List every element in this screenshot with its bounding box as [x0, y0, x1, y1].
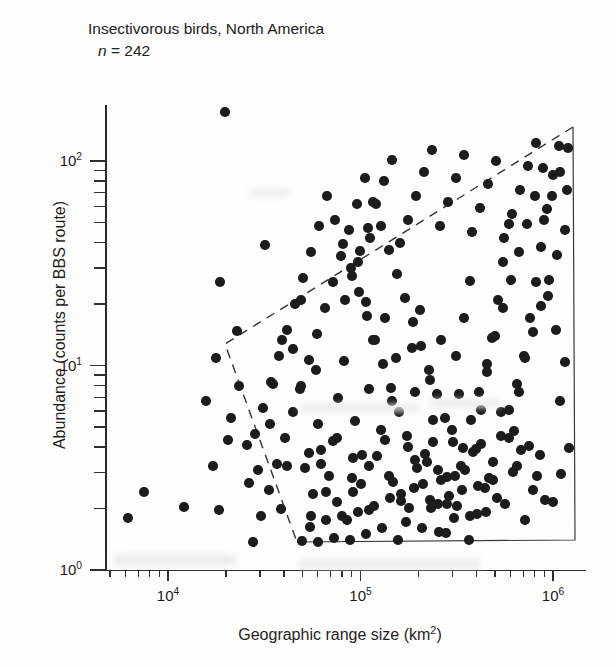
- scatter-point: [387, 396, 397, 406]
- scatter-point: [328, 277, 338, 287]
- scatter-point: [560, 357, 570, 367]
- scatter-point: [377, 523, 387, 533]
- scatter-point: [320, 303, 330, 313]
- scatter-point: [304, 355, 314, 365]
- scatter-point: [353, 507, 363, 517]
- scatter-point: [507, 209, 517, 219]
- scatter-point: [542, 204, 552, 214]
- dashed-constraint-polygon: [0, 0, 615, 668]
- scatter-point: [488, 457, 498, 467]
- scatter-point: [392, 269, 402, 279]
- scatter-point: [296, 381, 306, 391]
- scatter-point: [316, 445, 326, 455]
- scatter-point: [258, 403, 268, 413]
- scatter-point: [333, 393, 343, 403]
- scatter-point: [226, 413, 236, 423]
- scatter-point: [451, 351, 461, 361]
- scatter-point: [256, 511, 266, 521]
- scatter-point: [539, 215, 549, 225]
- scatter-point: [250, 429, 260, 439]
- scatter-point: [460, 465, 470, 475]
- scatter-point: [476, 439, 486, 449]
- scatter-point: [424, 365, 434, 375]
- scatter-point: [356, 479, 366, 489]
- scatter-point: [410, 455, 420, 465]
- scatter-point: [508, 467, 518, 477]
- scatter-point: [563, 143, 573, 153]
- scatter-point: [329, 533, 339, 543]
- scatter-point: [364, 384, 374, 394]
- scatter-point: [484, 473, 494, 483]
- scatter-point: [525, 313, 535, 323]
- scatter-point: [536, 301, 546, 311]
- scatter-point: [498, 257, 508, 267]
- scatter-point: [499, 233, 509, 243]
- scatter-point: [376, 425, 386, 435]
- scatter-point: [260, 240, 270, 250]
- scatter-point: [357, 450, 367, 460]
- scatter-point: [340, 295, 350, 305]
- scatter-point: [435, 221, 445, 231]
- scatter-point: [556, 469, 566, 479]
- scatter-point: [282, 461, 292, 471]
- scatter-point: [452, 501, 462, 511]
- scatter-point: [530, 191, 540, 201]
- scatter-point: [419, 167, 429, 177]
- scatter-point: [355, 246, 365, 256]
- scatter-point: [400, 293, 410, 303]
- scatter-point: [313, 419, 323, 429]
- scatter-point: [274, 351, 284, 361]
- scatter-point: [179, 502, 189, 512]
- scatter-point: [425, 375, 435, 385]
- scatter-point: [220, 107, 230, 117]
- scatter-point: [538, 163, 548, 173]
- scatter-point: [361, 297, 371, 307]
- scatter-point: [403, 215, 413, 225]
- scatter-point: [551, 325, 561, 335]
- scatter-point: [515, 185, 525, 195]
- scatter-point: [459, 313, 469, 323]
- scatter-point: [433, 465, 443, 475]
- scatter-point: [305, 522, 315, 532]
- scatter-point: [474, 387, 484, 397]
- scatter-point: [476, 405, 486, 415]
- scatter-point: [393, 535, 403, 545]
- scatter-point: [427, 145, 437, 155]
- scatter-point: [426, 503, 436, 513]
- scatter-point: [432, 389, 442, 399]
- scatter-point: [368, 197, 378, 207]
- scatter-point: [300, 463, 310, 473]
- scatter-point: [449, 513, 459, 523]
- scatter-point: [264, 485, 274, 495]
- scatter-point: [459, 150, 469, 160]
- scatter-point: [535, 450, 545, 460]
- scatter-point: [491, 156, 501, 166]
- scatter-point: [552, 250, 562, 260]
- scatter-point: [512, 379, 522, 389]
- scatter-point: [265, 419, 275, 429]
- scatter-point: [360, 173, 370, 183]
- scatter-point: [386, 383, 396, 393]
- scatter-point: [408, 317, 418, 327]
- scatter-point: [321, 515, 331, 525]
- scatter-point: [504, 405, 514, 415]
- scatter-point: [500, 499, 510, 509]
- scatter-point: [480, 483, 490, 493]
- scatter-point: [208, 461, 218, 471]
- scatter-point: [214, 505, 224, 515]
- scatter-point: [332, 433, 342, 443]
- scatter-point: [362, 311, 372, 321]
- scatter-point: [498, 303, 508, 313]
- scatter-point: [483, 179, 493, 189]
- scatter-point: [346, 263, 356, 273]
- scatter-point: [321, 487, 331, 497]
- scatter-point: [324, 471, 334, 481]
- scatter-point: [402, 431, 412, 441]
- scatter-point: [523, 161, 533, 171]
- scatter-point: [475, 203, 485, 213]
- scatter-point: [458, 443, 468, 453]
- scatter-point: [410, 387, 420, 397]
- scatter-point: [232, 326, 242, 336]
- scatter-point: [322, 191, 332, 201]
- scatter-point: [396, 489, 406, 499]
